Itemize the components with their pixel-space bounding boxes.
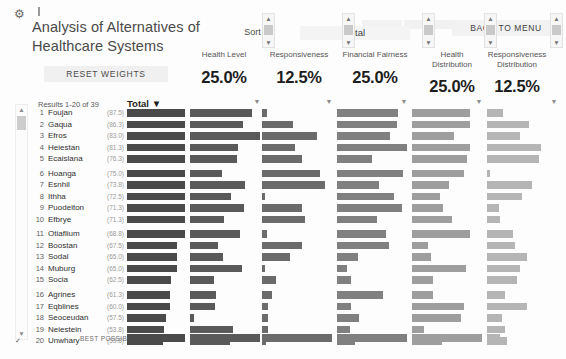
criterion-name: Financial Fairness: [330, 50, 420, 60]
scroll-up-arrow-icon[interactable]: ▲: [16, 105, 27, 115]
criterion-weight-value[interactable]: 25.0%: [188, 68, 260, 87]
row-score: (62.5): [84, 274, 124, 286]
table-row[interactable]: 8Ithha(72.5): [28, 191, 566, 203]
spinner-up-arrow-icon[interactable]: ▲: [263, 14, 274, 23]
bar-resp: [262, 291, 272, 299]
row-rank: 2: [28, 119, 44, 131]
criterion-weight-spinner[interactable]: ▲▼: [262, 13, 275, 48]
bar-hdist: [412, 181, 449, 189]
column-sort-chevron-hdist[interactable]: ▼: [474, 97, 484, 107]
row-rank: 14: [28, 263, 44, 275]
table-row[interactable]: 17Eqblines(60.0): [28, 301, 566, 313]
spinner-thumb[interactable]: [424, 25, 433, 35]
table-row[interactable]: 1Foujan(87.5): [28, 107, 566, 119]
bar-total: [127, 314, 166, 322]
spinner-down-arrow-icon[interactable]: ▼: [551, 38, 562, 47]
table-row[interactable]: 16Agrines(61.3): [28, 289, 566, 301]
bar-fin: [337, 265, 347, 273]
criterion-weight-spinner[interactable]: ▲▼: [342, 13, 355, 48]
bar-rdist: [487, 291, 505, 299]
bar-health: [190, 132, 260, 140]
table-row[interactable]: 18Seoceudan(57.5): [28, 312, 566, 324]
spinner-down-arrow-icon[interactable]: ▼: [423, 38, 434, 47]
results-table: 1Foujan(87.5)2Gaqua(86.3)3Efros(83.0)4He…: [28, 107, 566, 347]
row-checkmark-icon[interactable]: ✓: [15, 335, 21, 347]
bar-resp: [262, 144, 295, 152]
table-row[interactable]: 4Heiestan(81.3): [28, 142, 566, 154]
bar-rdist: [487, 121, 529, 129]
table-row[interactable]: 15Socia(62.5): [28, 274, 566, 286]
table-row[interactable]: 7Esnhil(73.8): [28, 179, 566, 191]
spinner-down-arrow-icon[interactable]: ▼: [343, 38, 354, 47]
table-row[interactable]: 3Efros(83.0): [28, 130, 566, 142]
bar-hdist: [412, 132, 454, 140]
table-row[interactable]: 14Muburg(65.0): [28, 263, 566, 275]
column-sort-chevron-resp[interactable]: ▼: [324, 97, 334, 107]
row-score: (61.3): [84, 289, 124, 301]
criterion-weight-spinner[interactable]: ▲▼: [484, 13, 497, 48]
row-name: Gaqua: [48, 119, 72, 131]
column-sort-chevron-fin[interactable]: ▼: [399, 97, 409, 107]
table-row[interactable]: 2Gaqua(86.3): [28, 119, 566, 131]
criterion-weight-value[interactable]: 12.5%: [258, 68, 340, 87]
bar-health: [190, 242, 218, 250]
spinner-up-arrow-icon[interactable]: ▲: [343, 14, 354, 23]
best-bar-resp: [262, 334, 332, 342]
criterion-weight-value[interactable]: 12.5%: [481, 77, 553, 96]
table-row[interactable]: 13Sodal(65.0): [28, 251, 566, 263]
sort-by-select[interactable]: Total: [300, 26, 410, 40]
bar-health: [190, 109, 252, 117]
row-score: (81.3): [84, 142, 124, 154]
table-row[interactable]: 10Efbrye(71.3): [28, 214, 566, 226]
spinner-up-arrow-icon[interactable]: ▲: [485, 14, 496, 23]
row-name: Efbrye: [48, 214, 71, 226]
table-row[interactable]: 12Boostan(67.5): [28, 240, 566, 252]
bar-fin: [337, 303, 351, 311]
criterion-weight-spinner[interactable]: ▲▼: [422, 13, 435, 48]
spinner-down-arrow-icon[interactable]: ▼: [263, 38, 274, 47]
criterion-weight-value[interactable]: 25.0%: [423, 77, 481, 96]
row-rank: 1: [28, 107, 44, 119]
table-row[interactable]: 11Otiaflium(68.8): [28, 228, 566, 240]
scrollbar-thumb[interactable]: [17, 116, 26, 130]
back-to-menu-button[interactable]: BACK TO MENU: [452, 20, 560, 36]
row-score: (71.3): [84, 214, 124, 226]
table-row[interactable]: 6Hoanga(75.0): [28, 168, 566, 180]
bar-resp: [262, 314, 268, 322]
row-rank: 4: [28, 142, 44, 154]
results-scrollbar[interactable]: ▲ ▼: [15, 104, 28, 340]
row-rank: 11: [28, 228, 44, 240]
bar-health: [190, 170, 222, 178]
best-bar-hdist: [412, 334, 482, 342]
column-sort-chevron-health[interactable]: ▼: [252, 97, 262, 107]
row-name: Sodal: [48, 251, 68, 263]
bar-rdist: [487, 230, 513, 238]
row-score: (87.5): [84, 107, 124, 119]
bar-rdist: [487, 132, 520, 140]
bar-rdist: [487, 144, 541, 152]
reset-weights-button[interactable]: RESET WEIGHTS: [44, 66, 168, 82]
row-name: Boostan: [48, 240, 77, 252]
row-rank: 6: [28, 168, 44, 180]
spinner-thumb[interactable]: [486, 25, 495, 35]
criterion-weight-spinner[interactable]: ▲▼: [550, 13, 563, 48]
spinner-down-arrow-icon[interactable]: ▼: [485, 38, 496, 47]
column-sort-chevron-rdist[interactable]: ▼: [549, 97, 559, 107]
criterion-weight-value[interactable]: 25.0%: [330, 68, 420, 87]
row-rank: 17: [28, 301, 44, 313]
bar-hdist: [412, 204, 443, 212]
spinner-up-arrow-icon[interactable]: ▲: [551, 14, 562, 23]
table-row[interactable]: 9Puodeiton(71.3): [28, 202, 566, 214]
criterion-name: Responsiveness: [258, 50, 340, 60]
bar-hdist: [412, 170, 464, 178]
spinner-up-arrow-icon[interactable]: ▲: [423, 14, 434, 23]
spinner-thumb[interactable]: [552, 25, 561, 35]
bar-hdist: [412, 276, 433, 284]
table-row[interactable]: 5Ecaislana(76.3): [28, 153, 566, 165]
bar-rdist: [487, 303, 527, 311]
settings-gear-icon[interactable]: ⚙: [13, 8, 25, 20]
bar-resp: [262, 303, 268, 311]
spinner-thumb[interactable]: [264, 25, 273, 35]
spinner-thumb[interactable]: [344, 25, 353, 35]
row-score: (75.0): [84, 168, 124, 180]
